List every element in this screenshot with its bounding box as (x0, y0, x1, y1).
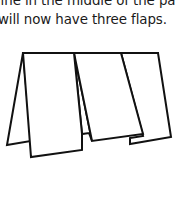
folded-paper-figure (0, 0, 176, 208)
front-flap (23, 53, 82, 157)
